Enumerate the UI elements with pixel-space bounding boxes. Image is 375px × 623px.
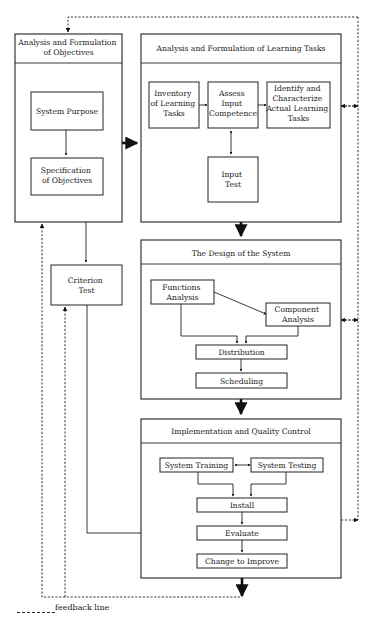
criterion-test-box: Criterion Test <box>51 265 122 305</box>
svg-text:System Training: System Training <box>165 461 228 470</box>
svg-text:Distribution: Distribution <box>218 348 264 357</box>
diagram-canvas: Analysis and Formulation of Objectives S… <box>0 0 375 623</box>
svg-text:The Design of the System: The Design of the System <box>192 249 291 258</box>
section-design: The Design of the System Functions Analy… <box>141 240 341 399</box>
svg-text:Evaluate: Evaluate <box>225 529 259 538</box>
svg-text:Analysis and Formulation of Le: Analysis and Formulation of Learning Tas… <box>156 44 326 53</box>
svg-text:Implementation and Quality Con: Implementation and Quality Control <box>171 427 311 436</box>
svg-text:Change to Improve: Change to Improve <box>205 557 279 566</box>
svg-text:System Testing: System Testing <box>258 461 317 470</box>
svg-text:Install: Install <box>230 501 255 510</box>
section-learning-tasks: Analysis and Formulation of Learning Tas… <box>141 34 341 222</box>
svg-text:System Purpose: System Purpose <box>36 107 99 116</box>
legend-dash-sample <box>17 612 55 613</box>
section-objectives: Analysis and Formulation of Objectives S… <box>15 34 122 222</box>
svg-text:Specification of Objecti: Specification of Objectives <box>41 166 93 185</box>
svg-text:Scheduling: Scheduling <box>220 377 263 386</box>
legend-label: feedback line <box>55 603 109 612</box>
svg-text:Functions Analysis: Functions Analysis <box>162 283 203 302</box>
section-implementation: Implementation and Quality Control Syste… <box>141 419 341 578</box>
